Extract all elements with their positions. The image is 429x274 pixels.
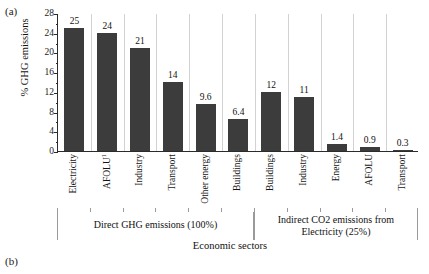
x-category-label-wrap: AFOLU1 bbox=[90, 154, 123, 212]
y-tick-major bbox=[54, 34, 58, 35]
category-separator bbox=[189, 14, 190, 151]
y-tick-label: 12 bbox=[32, 88, 54, 97]
x-category-label-wrap: Industry bbox=[287, 154, 320, 212]
figure-panel-a: (a) (b) % GHG emissions 0481216202428 25… bbox=[0, 0, 429, 274]
y-tick-major bbox=[54, 132, 58, 133]
y-tick-major bbox=[54, 53, 58, 54]
y-tick-label: 0 bbox=[32, 147, 54, 156]
bar-series: 252421149.66.412111.40.90.3 bbox=[58, 14, 418, 151]
y-tick-minor bbox=[56, 24, 59, 25]
category-separator bbox=[124, 14, 125, 151]
bar-slot: 9.6 bbox=[189, 14, 222, 151]
y-tick-major bbox=[54, 14, 58, 15]
bar-slot: 24 bbox=[91, 14, 124, 151]
category-footnote-marker: 1 bbox=[100, 154, 107, 157]
bar-slot: 0.9 bbox=[353, 14, 386, 151]
y-tick-minor bbox=[56, 83, 59, 84]
y-tick-minor bbox=[56, 122, 59, 123]
x-category-label: Transport bbox=[397, 154, 407, 191]
x-category-label-wrap: Buildings bbox=[221, 154, 254, 212]
bar[interactable] bbox=[228, 119, 248, 151]
x-axis-title: Economic sectors bbox=[150, 240, 310, 251]
bar-slot: 14 bbox=[156, 14, 189, 151]
y-tick-label: 28 bbox=[32, 9, 54, 18]
bar[interactable] bbox=[97, 33, 117, 151]
bar-value-label: 1.4 bbox=[331, 132, 343, 142]
bar[interactable] bbox=[327, 144, 347, 151]
bar[interactable] bbox=[294, 97, 314, 151]
x-category-label-wrap: Industry bbox=[123, 154, 156, 212]
y-tick-label: 16 bbox=[32, 68, 54, 77]
x-category-label: Industry bbox=[134, 154, 144, 186]
category-separator bbox=[255, 14, 256, 151]
x-category-label: Energy bbox=[331, 154, 341, 181]
x-category-label: AFOLU1 bbox=[100, 154, 112, 189]
category-separator bbox=[222, 14, 223, 151]
x-category-label: Transport bbox=[167, 154, 177, 191]
y-tick-major bbox=[54, 73, 58, 74]
bar[interactable] bbox=[360, 147, 380, 151]
y-tick-label: 4 bbox=[32, 127, 54, 136]
group-label-line2: Electricity (25%) bbox=[254, 226, 418, 238]
x-category-label-wrap: Transport bbox=[385, 154, 418, 212]
bar-slot: 6.4 bbox=[222, 14, 255, 151]
x-category-label-wrap: Buildings bbox=[254, 154, 287, 212]
category-separator bbox=[91, 14, 92, 151]
y-tick-major bbox=[54, 113, 58, 114]
y-tick-minor bbox=[56, 142, 59, 143]
x-category-label: Buildings bbox=[232, 154, 242, 191]
bar[interactable] bbox=[196, 104, 216, 151]
bar[interactable] bbox=[64, 28, 84, 151]
bar-slot: 0.3 bbox=[386, 14, 419, 151]
bar-value-label: 6.4 bbox=[233, 107, 245, 117]
bar-slot: 12 bbox=[255, 14, 288, 151]
bar-value-label: 14 bbox=[168, 70, 178, 80]
y-axis-title: % GHG emissions bbox=[19, 0, 30, 118]
y-tick-major bbox=[54, 93, 58, 94]
bar-value-label: 21 bbox=[135, 36, 145, 46]
y-tick-minor bbox=[56, 44, 59, 45]
bar-value-label: 0.9 bbox=[364, 135, 376, 145]
bar-value-label: 24 bbox=[102, 21, 112, 31]
bar[interactable] bbox=[163, 82, 183, 151]
x-category-label-wrap: Energy bbox=[320, 154, 353, 212]
x-category-label: Buildings bbox=[265, 154, 275, 191]
x-category-label: Other energy bbox=[200, 154, 210, 204]
bar-value-label: 25 bbox=[70, 16, 80, 26]
bar-slot: 11 bbox=[288, 14, 321, 151]
category-separator bbox=[156, 14, 157, 151]
category-separator bbox=[386, 14, 387, 151]
x-category-label-wrap: Other energy bbox=[188, 154, 221, 212]
group-axis bbox=[57, 212, 418, 213]
group-label: Direct GHG emissions (100%) bbox=[57, 219, 254, 231]
x-category-label: Industry bbox=[298, 154, 308, 186]
y-tick-label: 8 bbox=[32, 108, 54, 117]
group-label: Indirect CO2 emissions fromElectricity (… bbox=[254, 214, 418, 237]
bar[interactable] bbox=[261, 92, 281, 151]
bar[interactable] bbox=[130, 48, 150, 152]
bar-value-label: 9.6 bbox=[200, 92, 212, 102]
category-separator bbox=[321, 14, 322, 151]
x-category-label-wrap: Transport bbox=[155, 154, 188, 212]
y-tick-minor bbox=[56, 103, 59, 104]
category-separator bbox=[353, 14, 354, 151]
bar-value-label: 11 bbox=[300, 85, 309, 95]
category-separator bbox=[288, 14, 289, 151]
bar-slot: 25 bbox=[58, 14, 91, 151]
panel-letter-a: (a) bbox=[5, 5, 17, 17]
bar-value-label: 12 bbox=[267, 80, 277, 90]
x-category-label-wrap: Electricity bbox=[57, 154, 90, 212]
y-tick-major bbox=[54, 152, 58, 153]
y-tick-label: 20 bbox=[32, 48, 54, 57]
y-axis-tick-labels: 0481216202428 bbox=[30, 0, 54, 160]
y-tick-minor bbox=[56, 63, 59, 64]
x-category-label-wrap: AFOLU bbox=[352, 154, 385, 212]
panel-letter-b: (b) bbox=[5, 255, 18, 267]
y-tick-label: 24 bbox=[32, 29, 54, 38]
bar-slot: 1.4 bbox=[321, 14, 354, 151]
bar-value-label: 0.3 bbox=[397, 138, 409, 148]
plot-area: 252421149.66.412111.40.90.3 bbox=[57, 14, 418, 152]
x-category-label: Electricity bbox=[68, 154, 78, 194]
bar-slot: 21 bbox=[124, 14, 157, 151]
bar[interactable] bbox=[393, 150, 413, 152]
